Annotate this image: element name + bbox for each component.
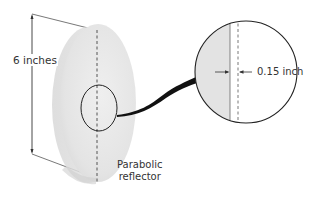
arrowhead-up-icon	[31, 14, 34, 19]
height-label: 6 inches	[12, 54, 58, 66]
diagram-canvas: 6 inches 0.15 inch Parabolic reflector	[0, 0, 312, 197]
reflector-label-line1: Parabolic	[117, 159, 162, 171]
reflector-label: Parabolic reflector	[117, 159, 162, 182]
arrowhead-down-icon	[31, 149, 34, 154]
reflector-label-line2: reflector	[117, 171, 162, 183]
thickness-label: 0.15 inch	[257, 66, 303, 78]
